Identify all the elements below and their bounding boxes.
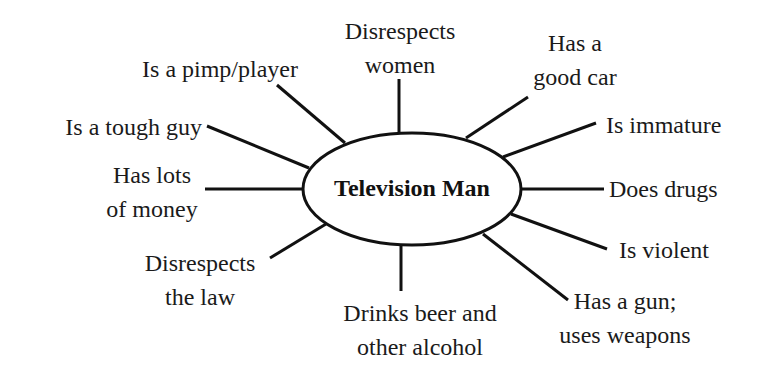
node-disrespects-women: Disrespects women [320,14,480,82]
node-line: Has a gun; [550,284,700,318]
node-line: Disrespects [130,246,270,280]
node-is-immature: Is immature [606,108,721,142]
node-is-violent: Is violent [619,233,709,267]
node-line: other alcohol [320,330,520,364]
node-does-drugs: Does drugs [609,172,718,206]
node-line: uses weapons [550,318,700,352]
node-line: the law [130,280,270,314]
node-line: good car [520,60,630,94]
node-line: Drinks beer and [320,296,520,330]
node-disrespects-law: Disrespects the law [130,246,270,314]
node-line: Disrespects [320,14,480,48]
connector-car [466,97,528,138]
node-line: Is a tough guy [0,110,202,144]
node-has-good-car: Has a good car [520,26,630,94]
connector-pimp [277,85,345,143]
node-drinks-beer: Drinks beer and other alcohol [320,296,520,364]
node-line: Has lots [90,158,214,192]
node-has-lots-of-money: Has lots of money [90,158,214,226]
node-has-gun: Has a gun; uses weapons [550,284,700,352]
connector-law [270,224,326,258]
node-line: Has a [520,26,630,60]
node-line: Is a pimp/player [60,52,298,86]
node-line: women [320,48,480,82]
node-tough-guy: Is a tough guy [0,110,202,144]
node-line: Is immature [606,108,721,142]
center-node-label: Television Man [304,172,520,204]
connector-violent [511,214,607,249]
connector-immature [503,123,596,157]
connector-tough [207,126,309,168]
node-pimp-player: Is a pimp/player [60,52,298,86]
node-line: Does drugs [609,172,718,206]
node-line: of money [90,192,214,226]
node-line: Is violent [619,233,709,267]
